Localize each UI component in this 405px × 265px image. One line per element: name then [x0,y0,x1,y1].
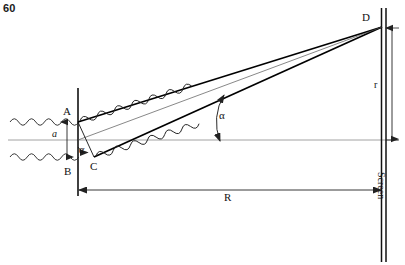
incident-wave-lower [10,154,79,161]
label-point-c: C [90,161,97,172]
label-point-d: D [362,12,370,23]
label-screen: Screen [376,172,386,199]
ray-from-C-to-D [94,27,382,157]
label-distance-to-screen: R [224,192,231,203]
incident-wave-upper [10,119,79,126]
label-point-b: B [64,166,71,177]
screen-line [382,8,387,262]
ray-from-axis-to-D [78,27,382,140]
label-angle-at-slit: α [79,145,84,155]
label-angle-of-ray: α [219,110,225,121]
label-point-a: A [63,106,71,117]
label-slit-width: a [52,129,57,139]
label-fringe-position: r [374,80,377,90]
figure-root: 60 [0,0,405,265]
diffraction-diagram [0,0,405,265]
